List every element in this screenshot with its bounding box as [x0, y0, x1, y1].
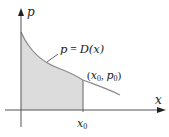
demand-curve-diagram: p x p = D(x) (x0, p0) x0 [0, 0, 169, 137]
curve-label: p = D(x) [60, 42, 104, 56]
y-axis-label: p [27, 5, 35, 19]
x-axis-label: x [155, 93, 162, 107]
point-label-p: p [106, 69, 113, 82]
curve-label-leader [47, 54, 58, 62]
point-label: (x0, p0) [87, 69, 121, 83]
curve-label-rhs: D(x) [79, 42, 105, 56]
curve-label-equals: = [67, 43, 79, 55]
point-label-close: ) [117, 69, 121, 82]
x0-tick-label: x0 [77, 117, 87, 131]
x0-tick-label-sub: 0 [83, 122, 87, 131]
y-axis-arrow-icon [18, 8, 24, 16]
x-axis-arrow-icon [157, 107, 166, 113]
